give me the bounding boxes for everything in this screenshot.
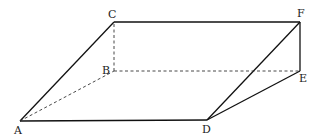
label-F: F: [297, 7, 305, 20]
vertex-labels: A B C D E F: [13, 7, 307, 137]
edge-AB: [20, 71, 114, 121]
diagram-svg: A B C D E F: [0, 0, 318, 138]
label-A: A: [13, 124, 23, 137]
edge-DE: [207, 71, 300, 120]
edge-AD: [20, 120, 207, 121]
edge-AC: [20, 22, 114, 121]
prism-diagram: A B C D E F: [0, 0, 318, 138]
label-D: D: [202, 123, 211, 136]
label-E: E: [299, 72, 307, 85]
dashed-edges: [20, 22, 300, 121]
label-B: B: [102, 64, 110, 77]
solid-edges: [20, 22, 300, 121]
label-C: C: [108, 8, 116, 21]
